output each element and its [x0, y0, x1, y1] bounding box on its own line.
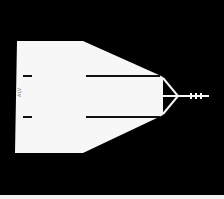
feed-stub-1: [190, 93, 192, 99]
antenna-layout: ALV: [0, 0, 224, 199]
feed-stub-2: [195, 93, 197, 99]
lower-short-slot: [23, 116, 32, 118]
upper-short-slot: [23, 75, 32, 77]
feed-stub-3: [200, 93, 202, 99]
bottom-strip: [0, 195, 224, 199]
lower-slot: [86, 116, 160, 118]
layout-label: ALV: [16, 87, 22, 97]
upper-slot: [86, 75, 160, 77]
